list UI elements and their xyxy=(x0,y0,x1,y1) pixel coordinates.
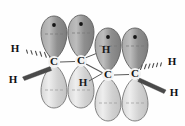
atom-label-h5: H xyxy=(102,43,111,55)
atom-label-h6: H xyxy=(79,76,88,88)
atom-label-c1: C xyxy=(50,55,58,67)
bond-c4-h3-hashed-wedge xyxy=(141,63,162,70)
atom-label-c4: C xyxy=(131,67,139,79)
atom-label-h4: H xyxy=(170,86,179,98)
bond-c3-c4 xyxy=(114,75,129,76)
atom-label-h1: H xyxy=(11,42,20,54)
bond-c1-c2 xyxy=(60,62,75,63)
atom-label-h3: H xyxy=(168,55,177,67)
p-orbital-lobe-c2-top xyxy=(68,15,94,59)
atom-label-c2: C xyxy=(77,54,85,66)
electron-dot-c4 xyxy=(133,35,137,39)
p-orbital-lobe-c3-bottom xyxy=(95,77,121,121)
electron-dot-c3 xyxy=(106,35,110,39)
atom-label-h2: H xyxy=(9,73,18,85)
atom-label-c3: C xyxy=(104,68,112,80)
orbital-diagram-figure: C C C C H H H H H H xyxy=(0,0,185,126)
electron-dot-c2 xyxy=(79,22,83,26)
orbital-diagram-canvas: C C C C H H H H H H xyxy=(0,0,185,126)
p-orbital-lobe-c4-top xyxy=(122,28,148,72)
electron-dot-c1 xyxy=(52,23,56,27)
